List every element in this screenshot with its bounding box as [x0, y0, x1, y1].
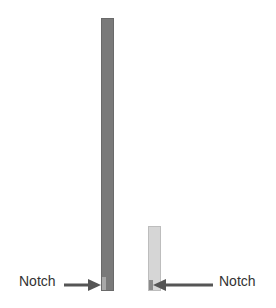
tall-bar — [101, 18, 114, 291]
notch-label-right: Notch — [219, 273, 256, 289]
notch-label-left: Notch — [19, 273, 56, 289]
tall-bar-notch — [102, 277, 106, 290]
arrow-left-icon — [153, 278, 213, 292]
arrow-right-icon — [64, 278, 102, 292]
